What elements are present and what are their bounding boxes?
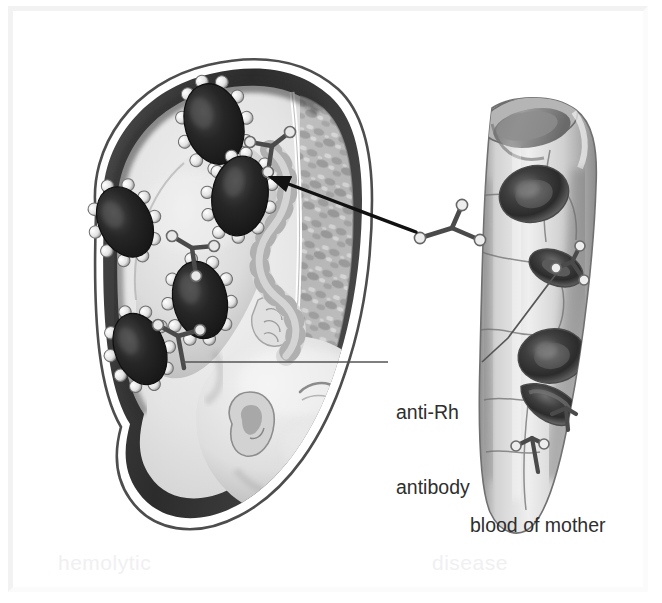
label-blood-of-mother: blood of mother <box>470 513 606 538</box>
label-anti-rh-antibody: anti-Rh antibody <box>396 350 470 550</box>
maternal-blood-vessel <box>479 88 597 533</box>
ghost-text-right: disease <box>432 551 508 575</box>
label-anti-rh-line2: antibody <box>396 475 470 500</box>
ghost-text-left: hemolytic <box>58 551 151 575</box>
figure-root: hemolytic disease anti-Rh antibody blood… <box>0 0 662 603</box>
label-anti-rh-line1: anti-Rh <box>396 400 470 425</box>
uterus-group <box>71 59 384 529</box>
free-anti-rh-antibody <box>414 199 485 245</box>
